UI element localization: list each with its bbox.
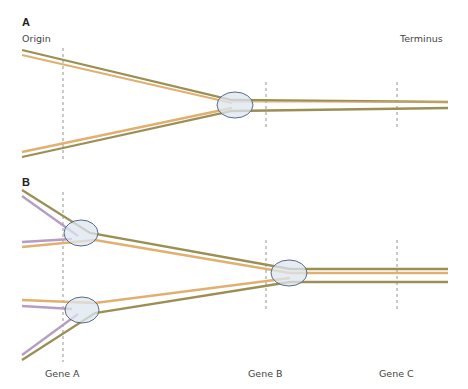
panel-b-strands <box>22 190 448 360</box>
panel-b-label: B <box>22 176 30 188</box>
replication-fork-b-upper <box>64 220 98 246</box>
replication-fork-a <box>217 92 253 118</box>
panel-a-label: A <box>22 16 30 28</box>
replication-fork-b-lower <box>65 297 99 323</box>
origin-label: Origin <box>22 33 51 44</box>
terminus-label: Terminus <box>399 33 443 44</box>
gene-a-label: Gene A <box>45 368 80 379</box>
replication-diagram: A Origin Terminus B Gene A Gene B Gene C <box>0 0 468 389</box>
gene-b-label: Gene B <box>248 368 283 379</box>
replication-fork-b-main <box>271 260 307 286</box>
gene-c-label: Gene C <box>379 368 414 379</box>
